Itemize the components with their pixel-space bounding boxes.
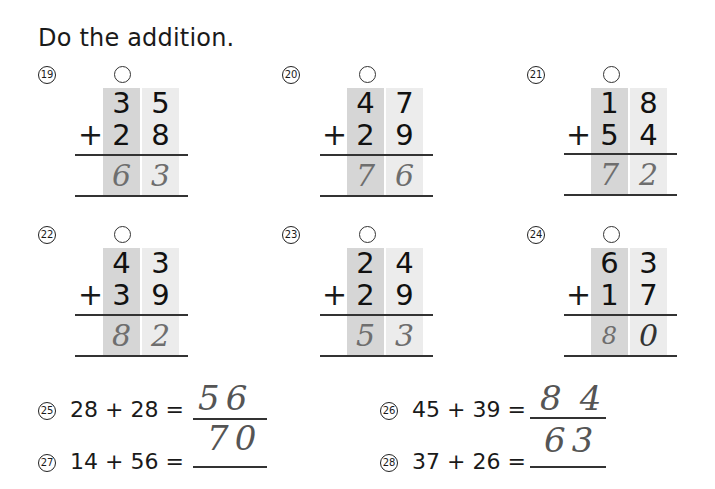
- sum-line: [320, 154, 433, 156]
- problem-number: 21: [527, 66, 545, 84]
- digit: 2: [347, 279, 384, 311]
- carry-circle[interactable]: [603, 66, 620, 83]
- expression: 45 + 39 =: [412, 397, 526, 422]
- expression: 28 + 28 =: [70, 397, 184, 422]
- digit: 4: [630, 119, 667, 151]
- digit: 8: [142, 119, 179, 151]
- digit: 4: [386, 247, 423, 279]
- answer-digit[interactable]: 8: [103, 319, 140, 353]
- problem-number: 28: [380, 454, 398, 472]
- problem-22: 22 4 3 + 3 9 8 2: [38, 226, 268, 376]
- digit: 9: [386, 279, 423, 311]
- digit: 7: [630, 279, 667, 311]
- problem-20: 20 4 7 + 2 9 7 6: [282, 66, 512, 216]
- answer-digit[interactable]: 6: [103, 159, 140, 193]
- digit: 3: [142, 247, 179, 279]
- problem-number: 25: [38, 402, 56, 420]
- digit: 2: [347, 247, 384, 279]
- carry-circle[interactable]: [359, 226, 376, 243]
- sum-line: [75, 314, 188, 316]
- problem-number: 27: [38, 454, 56, 472]
- handwritten-answer[interactable]: 56: [198, 378, 253, 418]
- digit: 2: [103, 119, 140, 151]
- handwritten-answer[interactable]: 84: [540, 378, 619, 418]
- answer-digit[interactable]: 3: [142, 159, 179, 193]
- digit: 3: [103, 87, 140, 119]
- problem-21: 21 1 8 + 5 4 7 2: [527, 66, 715, 216]
- digit: 7: [386, 87, 423, 119]
- bottom-line: [564, 194, 677, 196]
- digit: 1: [591, 279, 628, 311]
- digit: 9: [386, 119, 423, 151]
- answer-digit[interactable]: 2: [142, 319, 179, 353]
- bottom-line: [320, 195, 433, 197]
- problem-25: 2528 + 28 =: [38, 397, 184, 422]
- bottom-line: [75, 195, 188, 197]
- bottom-line: [75, 355, 188, 357]
- problem-number: 20: [282, 66, 300, 84]
- problem-27: 2714 + 56 =: [38, 449, 184, 474]
- bottom-line: [320, 355, 433, 357]
- expression: 14 + 56 =: [70, 449, 184, 474]
- answer-digit[interactable]: 2: [630, 158, 667, 192]
- answer-digit[interactable]: 8: [591, 319, 628, 353]
- digit: 4: [103, 247, 140, 279]
- problem-23: 23 2 4 + 2 9 5 3: [282, 226, 512, 376]
- answer-blank[interactable]: [193, 466, 267, 468]
- problem-number: 24: [527, 226, 545, 244]
- problem-26: 2645 + 39 =: [380, 397, 526, 422]
- answer-digit[interactable]: 0: [630, 319, 667, 353]
- carry-circle[interactable]: [603, 226, 620, 243]
- answer-blank[interactable]: [530, 466, 606, 468]
- digit: 3: [630, 247, 667, 279]
- carry-circle[interactable]: [114, 226, 131, 243]
- plus-sign: +: [322, 279, 347, 311]
- answer-digit[interactable]: 7: [347, 159, 384, 193]
- digit: 9: [142, 279, 179, 311]
- digit: 5: [591, 119, 628, 151]
- instruction-title: Do the addition.: [38, 24, 234, 52]
- digit: 8: [630, 87, 667, 119]
- sum-line: [75, 154, 188, 156]
- carry-circle[interactable]: [114, 66, 131, 83]
- plus-sign: +: [322, 119, 347, 151]
- problem-number: 19: [38, 66, 56, 84]
- problem-19: 19 3 5 + 2 8 6 3: [38, 66, 268, 216]
- digit: 4: [347, 87, 384, 119]
- handwritten-answer[interactable]: 70: [207, 418, 262, 458]
- sum-line: [564, 153, 677, 155]
- plus-sign: +: [566, 119, 591, 151]
- carry-circle[interactable]: [359, 66, 376, 83]
- problem-number: 22: [38, 226, 56, 244]
- digit: 2: [347, 119, 384, 151]
- bottom-line: [564, 355, 677, 357]
- plus-sign: +: [78, 279, 103, 311]
- digit: 1: [591, 87, 628, 119]
- digit: 5: [142, 87, 179, 119]
- digit: 6: [591, 247, 628, 279]
- answer-digit[interactable]: 6: [386, 159, 423, 193]
- answer-digit[interactable]: 3: [386, 319, 423, 353]
- problem-28: 2837 + 26 =: [380, 449, 526, 474]
- answer-digit[interactable]: 5: [347, 319, 384, 353]
- problem-number: 23: [282, 226, 300, 244]
- answer-digit[interactable]: 7: [591, 158, 628, 192]
- problem-24: 24 6 3 + 1 7 8 0: [527, 226, 715, 376]
- handwritten-answer[interactable]: 63: [544, 420, 599, 460]
- problem-number: 26: [380, 402, 398, 420]
- plus-sign: +: [78, 119, 103, 151]
- plus-sign: +: [566, 279, 591, 311]
- expression: 37 + 26 =: [412, 449, 526, 474]
- sum-line: [320, 314, 433, 316]
- digit: 3: [103, 279, 140, 311]
- sum-line: [564, 314, 677, 316]
